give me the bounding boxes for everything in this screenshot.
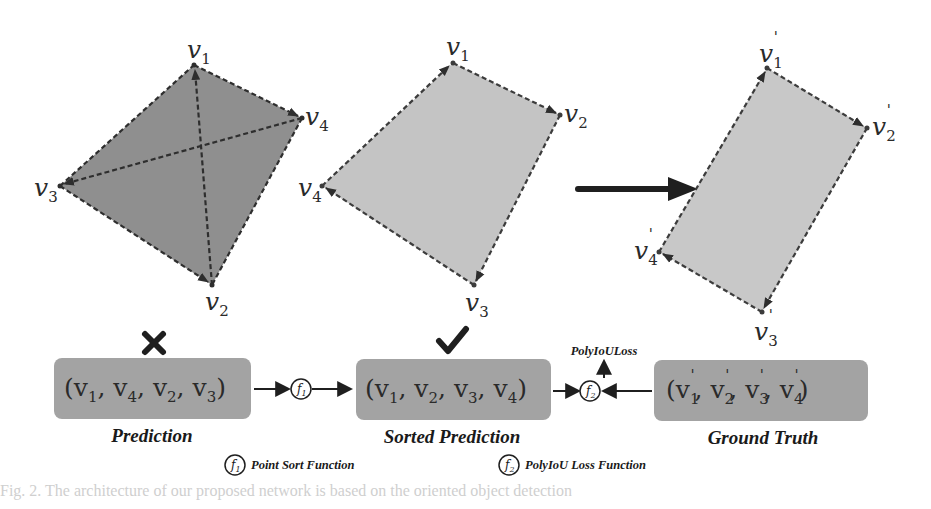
point-sort-function-node: f1	[291, 379, 311, 399]
prediction-caption: Prediction	[110, 425, 192, 446]
polyiou-loss-output-label: PolyIoULoss	[571, 344, 638, 358]
legend-label: Point Sort Function	[251, 458, 355, 472]
figure-caption-footer: Fig. 2. The architecture of our proposed…	[0, 482, 572, 500]
vertex-label-v1-prime: v1'	[759, 28, 783, 72]
vertex-label-v3: v3	[465, 288, 489, 321]
vertex-label-v4-prime: v4'	[634, 225, 658, 269]
polyiou-loss-function-node: f2	[580, 381, 600, 401]
transition-arrow	[578, 177, 698, 201]
vertex-label-v3-prime: v3'	[754, 306, 778, 350]
ground-truth-caption: Ground Truth	[708, 427, 819, 448]
cross-icon	[145, 334, 163, 352]
prediction-polygon: v1 v4 v3 v2	[34, 35, 329, 320]
legend-item-polyiou-loss: f2 PolyIoU Loss Function	[499, 455, 646, 475]
vertex-label-v2: v2	[564, 99, 588, 132]
vertex-label-v3: v3	[34, 173, 58, 206]
ground-truth-box: (v1', v2', v3', v4')	[654, 360, 868, 421]
vertex-label-v4: v4	[305, 102, 329, 135]
legend-label: PolyIoU Loss Function	[525, 458, 646, 472]
sorted-polygon: v1 v2 v4 v3	[298, 32, 588, 321]
vertex-label-v1: v1	[187, 35, 211, 68]
polyiou-diagram: v1 v4 v3 v2 v1 v2 v4 v3	[0, 0, 931, 509]
check-icon	[439, 329, 466, 351]
sorted-prediction-caption: Sorted Prediction	[384, 426, 521, 447]
vertex-label-v1: v1	[446, 32, 470, 65]
sorted-prediction-box: (v1, v2, v3, v4)	[356, 359, 551, 420]
prediction-box: (v1, v4, v2, v3)	[54, 358, 251, 419]
legend-item-point-sort: f1 Point Sort Function	[225, 455, 355, 475]
vertex-label-v4: v4	[298, 173, 322, 206]
vertex-label-v2: v2	[205, 287, 229, 320]
vertex-label-v2-prime: v2'	[872, 101, 896, 145]
